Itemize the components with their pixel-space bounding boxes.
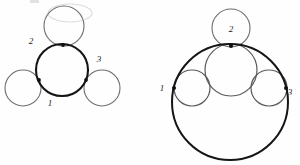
left-label-one: 1 bbox=[48, 98, 53, 108]
canvas-background bbox=[0, 0, 300, 165]
top-left-speck-artifact bbox=[30, 0, 39, 3]
right-label-two: 2 bbox=[229, 24, 234, 34]
left-tangency-lower-left-point bbox=[37, 78, 41, 82]
left-tangency-top-point bbox=[61, 43, 65, 47]
right-tangency-top-point bbox=[229, 44, 233, 48]
geometry-figure-canvas: 2 3 1 2 1 3 bbox=[0, 0, 300, 165]
right-tangency-left-point bbox=[172, 86, 176, 90]
left-label-three: 3 bbox=[96, 54, 102, 64]
right-label-one: 1 bbox=[160, 83, 165, 93]
left-tangency-lower-right-point bbox=[84, 78, 88, 82]
right-label-three: 3 bbox=[287, 87, 293, 97]
left-label-two: 2 bbox=[29, 36, 34, 46]
